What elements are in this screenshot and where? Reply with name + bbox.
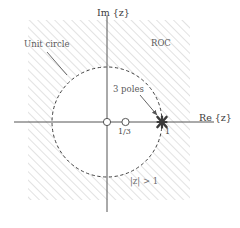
imaginary-axis-label: Im {z} xyxy=(97,8,130,18)
pole-marker-triple-at-one xyxy=(158,117,167,128)
poles-annotation-label: 3 poles xyxy=(113,85,144,94)
unit-circle-label: Unit circle xyxy=(24,40,70,49)
figure-canvas: Im {z} Re {z} Unit circle ROC 3 poles 1/… xyxy=(0,0,240,228)
roc-label: ROC xyxy=(151,39,171,48)
tick-label-one-third: 1/3 xyxy=(118,128,131,136)
zero-marker-origin xyxy=(103,118,110,125)
roc-region-inequality-label: |z| > 1 xyxy=(130,177,158,186)
real-axis-label: Re {z} xyxy=(199,113,232,123)
tick-label-one: 1 xyxy=(165,128,170,136)
zero-marker-one-third xyxy=(122,118,129,125)
